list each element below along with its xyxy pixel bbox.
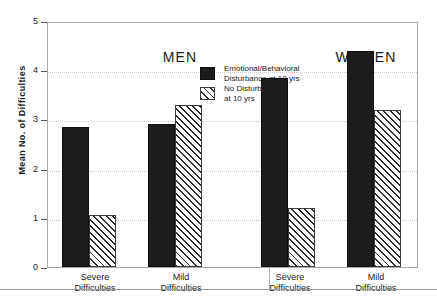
y-tick-0 — [41, 268, 47, 269]
bar-men-mild-no-disturbance — [175, 105, 202, 267]
y-tick-label-0: 0 — [8, 263, 38, 272]
category-label-women-mild-line1: Mild — [328, 272, 424, 283]
bar-women-severe-no-disturbance — [288, 208, 315, 267]
bottom-divider-rule — [0, 289, 437, 290]
legend-swatch-solid-icon — [200, 67, 215, 80]
y-tick-label-2: 2 — [8, 165, 38, 174]
bar-men-mild-disturbance — [148, 124, 175, 267]
bar-men-severe-disturbance — [62, 127, 89, 267]
y-tick-label-1: 1 — [8, 214, 38, 223]
legend-label-disturbance-line1: Emotional/Behavioral — [224, 64, 300, 74]
bar-women-mild-no-disturbance — [374, 110, 401, 267]
category-label-men-mild-line1: Mild — [133, 272, 229, 283]
bar-chart-figure: Mean No. of Difficulties 012345 MEN WOME… — [0, 0, 437, 298]
legend-swatch-hatched-icon — [200, 87, 215, 100]
category-label-women-severe: Severe Difficulties — [242, 272, 338, 294]
category-label-men-mild: Mild Difficulties — [133, 272, 229, 294]
category-label-men-severe-line1: Severe — [47, 272, 143, 283]
plot-area: MEN WOMEN Emotional/Behavioral Disturban… — [47, 22, 418, 268]
bar-men-severe-no-disturbance — [89, 215, 116, 267]
y-tick-label-4: 4 — [8, 66, 38, 75]
category-label-men-severe: Severe Difficulties — [47, 272, 143, 294]
category-label-women-severe-line1: Severe — [242, 272, 338, 283]
bar-women-severe-disturbance — [261, 78, 288, 267]
y-tick-label-5: 5 — [8, 17, 38, 26]
category-label-women-mild: Mild Difficulties — [328, 272, 424, 294]
panel-title-men: MEN — [120, 49, 240, 65]
bar-women-mild-disturbance — [347, 51, 374, 267]
y-tick-label-3: 3 — [8, 115, 38, 124]
